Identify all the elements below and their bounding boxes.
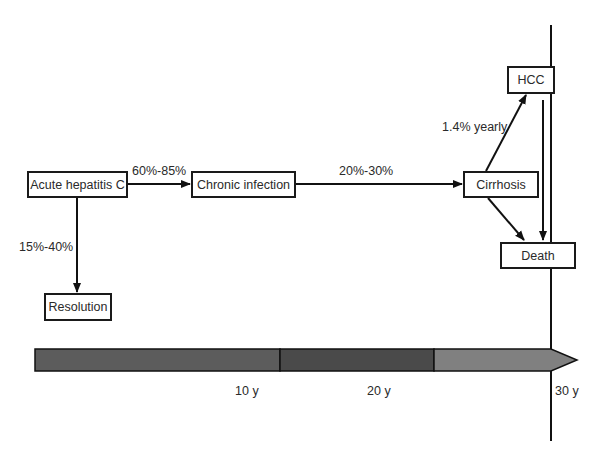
node-acute-hepatitis-c: Acute hepatitis C bbox=[27, 171, 128, 198]
tick-20y: 20 y bbox=[367, 384, 391, 398]
label-cirrhosis-to-hcc: 1.4% yearly bbox=[442, 120, 507, 134]
timeline-segment-0-10 bbox=[35, 349, 280, 371]
arrow-cirrhosis-to-death bbox=[488, 198, 524, 240]
timeline-segment-10-20 bbox=[280, 349, 434, 371]
node-cirrhosis: Cirrhosis bbox=[463, 171, 539, 198]
node-resolution: Resolution bbox=[44, 293, 112, 321]
node-hcc: HCC bbox=[507, 66, 555, 94]
label-chronic-to-cirrhosis: 20%-30% bbox=[339, 164, 393, 178]
tick-30y: 30 y bbox=[555, 384, 579, 398]
tick-10y: 10 y bbox=[235, 384, 259, 398]
label-acute-to-chronic: 60%-85% bbox=[132, 164, 186, 178]
node-chronic-infection: Chronic infection bbox=[191, 171, 296, 198]
timeline-bar bbox=[35, 349, 577, 371]
timeline-segment-20-30-arrow bbox=[434, 349, 577, 371]
node-death: Death bbox=[500, 242, 576, 269]
label-acute-to-resolution: 15%-40% bbox=[19, 240, 73, 254]
